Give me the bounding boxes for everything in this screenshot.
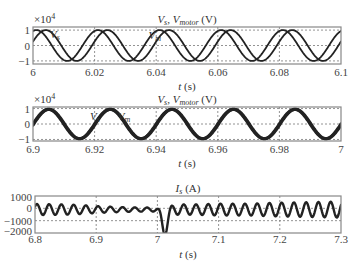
y-tick-label: 1000: [10, 191, 33, 203]
y-tick-label: 0: [27, 202, 33, 214]
x-tick-label: 6.08: [270, 66, 290, 78]
x-axis-label: t (s): [179, 248, 197, 261]
y-tick-label: 0: [25, 40, 31, 52]
chart-vs-vmotor-6-6.1: 10−166.026.046.066.086.1t (s)×104Vs, Vmo…: [18, 12, 348, 93]
x-tick-label: 7.1: [212, 233, 226, 245]
y-multiplier: ×104: [34, 12, 55, 25]
x-tick-label: 7: [338, 143, 344, 155]
y-tick-label: −1: [18, 55, 30, 67]
series-annotation: Vs: [90, 110, 100, 124]
y-tick-label: 1: [25, 103, 31, 115]
chart-title: Vs, Vmotor (V): [157, 13, 217, 27]
y-tick-label: 0: [25, 118, 31, 130]
x-tick-label: 6.96: [208, 143, 228, 155]
x-tick-label: 6.92: [85, 143, 104, 155]
series-annotation: Vm: [118, 110, 131, 124]
chart-title: Vs, Vmotor (V): [157, 93, 217, 107]
chart-is-current: 10000−1000−20006.86.977.17.27.3t (s)Is (…: [4, 182, 349, 261]
y-tick-label: 1: [25, 24, 31, 36]
x-tick-label: 7.2: [273, 233, 287, 245]
x-tick-label: 7.3: [334, 233, 348, 245]
x-tick-label: 6.06: [208, 66, 228, 78]
x-tick-label: 6.9: [26, 143, 40, 155]
chart-vs-vmotor-6.9-7: 10−16.96.926.946.966.987t (s)×104Vs, Vmo…: [18, 92, 344, 170]
x-tick-label: 6.1: [334, 66, 348, 78]
figure: 10−166.026.046.066.086.1t (s)×104Vs, Vmo…: [0, 0, 357, 270]
y-multiplier: ×104: [34, 92, 55, 105]
x-axis-label: t (s): [178, 80, 196, 93]
x-tick-label: 6.94: [147, 143, 167, 155]
x-tick-label: 6.8: [28, 233, 42, 245]
x-tick-label: 6.98: [270, 143, 290, 155]
x-tick-label: 6.9: [89, 233, 103, 245]
chart-title: Is (A): [175, 182, 201, 196]
x-tick-label: 6.02: [85, 66, 104, 78]
x-tick-label: 6: [30, 66, 36, 78]
x-tick-label: 7: [155, 233, 161, 245]
x-tick-label: 6.04: [147, 66, 167, 78]
series-i-s: [35, 202, 341, 236]
x-axis-label: t (s): [178, 157, 196, 170]
